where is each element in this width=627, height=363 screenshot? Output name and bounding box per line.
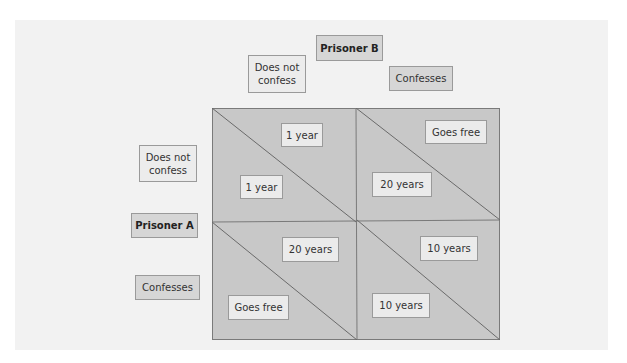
cell-br-prisoner-b-payoff: 10 years	[420, 236, 478, 261]
prisoner-a-does-not-confess-label: Does not confess	[139, 145, 197, 182]
prisoner-b-does-not-confess-label: Does not confess	[248, 55, 306, 93]
cell-tr-prisoner-b-payoff: Goes free	[425, 120, 487, 144]
prisoner-a-label: Prisoner A	[131, 213, 198, 238]
cell-bl-prisoner-a-payoff: Goes free	[228, 295, 289, 320]
cell-tl-prisoner-b-payoff: 1 year	[281, 123, 323, 147]
prisoner-b-confesses-label: Confesses	[389, 66, 453, 91]
cell-tr-prisoner-a-payoff: 20 years	[372, 172, 432, 197]
prisoner-a-confesses-label: Confesses	[135, 275, 200, 300]
cell-br-prisoner-a-payoff: 10 years	[372, 293, 430, 318]
prisoner-b-label: Prisoner B	[316, 35, 383, 61]
cell-tl-prisoner-a-payoff: 1 year	[240, 175, 283, 199]
cell-bl-prisoner-b-payoff: 20 years	[282, 237, 339, 262]
